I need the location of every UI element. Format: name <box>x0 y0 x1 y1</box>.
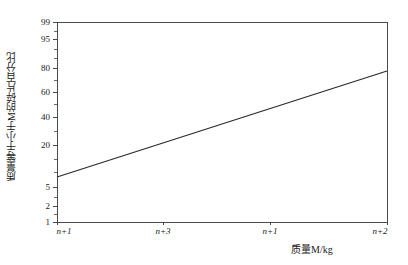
y-tick-label: 20 <box>41 140 51 150</box>
y-tick-label: 1 <box>46 217 51 227</box>
x-tick-label: n+1 <box>262 226 277 236</box>
y-axis-title: 质量等于小于M的碎片百分比 <box>4 52 19 181</box>
data-series <box>57 71 387 177</box>
plot-area: 999580604020521 n+1n+3n+1n+2 <box>0 0 408 265</box>
series-line <box>57 71 387 177</box>
axes-frame <box>57 22 387 222</box>
chart-figure: 999580604020521 n+1n+3n+1n+2 质量等于小于M的碎片百… <box>0 0 408 265</box>
y-tick-labels: 999580604020521 <box>41 17 51 227</box>
x-axis-title-text: 质量M/kg <box>291 244 333 255</box>
x-tick-label: n+3 <box>155 226 171 236</box>
y-tick-label: 40 <box>41 112 51 122</box>
y-tick-label: 99 <box>41 17 51 27</box>
tick-marks <box>53 22 387 225</box>
x-axis-title: 质量M/kg <box>291 241 333 256</box>
y-tick-label: 2 <box>46 201 51 211</box>
x-tick-label: n+1 <box>56 226 71 236</box>
y-tick-label: 5 <box>46 182 51 192</box>
x-tick-labels: n+1n+3n+1n+2 <box>56 226 388 236</box>
y-tick-label: 80 <box>41 63 51 73</box>
x-tick-label: n+2 <box>372 226 388 236</box>
y-tick-label: 95 <box>41 34 51 44</box>
y-tick-label: 60 <box>41 87 51 97</box>
